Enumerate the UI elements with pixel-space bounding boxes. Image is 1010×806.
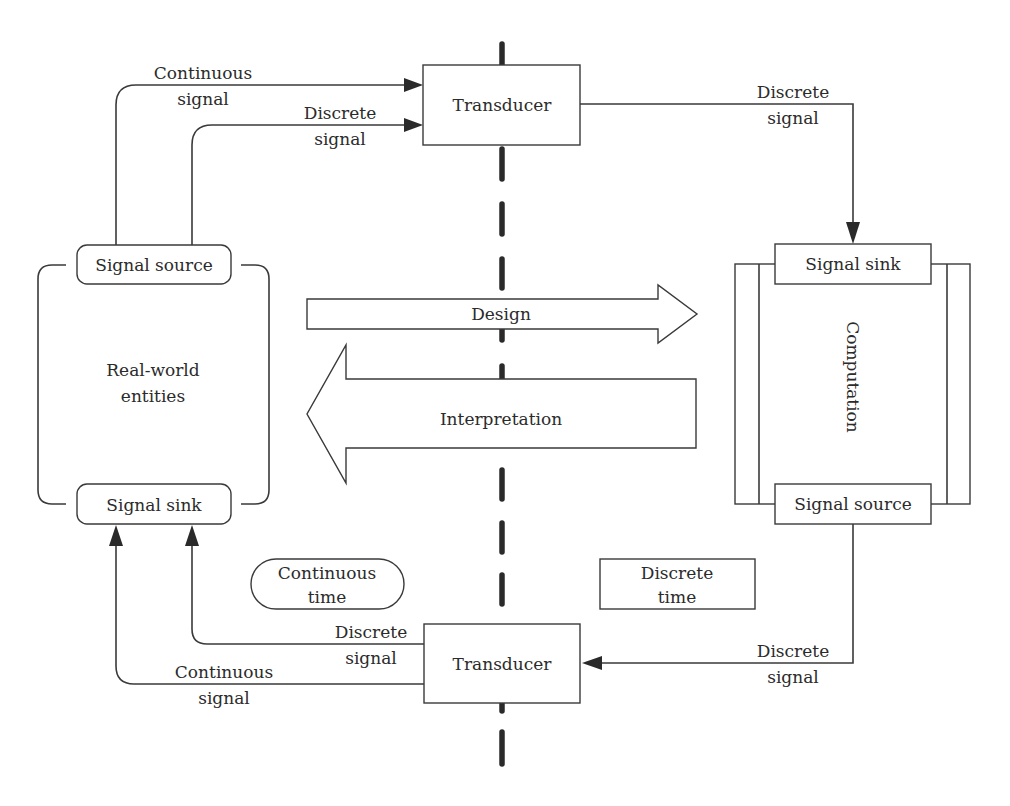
discrete-time-label: Discrete time bbox=[600, 559, 755, 609]
top-discrete-in-label-line1: Discrete bbox=[304, 103, 376, 123]
right-signal-source: Signal source bbox=[775, 484, 931, 524]
bottom-discrete-in-label-line2: signal bbox=[767, 667, 819, 687]
top-continuous-signal-flow: Continuous signal bbox=[116, 63, 423, 245]
bottom-continuous-label-line1: Continuous bbox=[175, 662, 273, 682]
arrowhead-icon bbox=[185, 525, 199, 546]
bottom-continuous-out-flow: Continuous signal bbox=[109, 525, 424, 708]
computation-label: Computation bbox=[843, 321, 863, 433]
left-signal-source-label: Signal source bbox=[95, 255, 213, 275]
top-transducer: Transducer bbox=[423, 65, 580, 145]
discrete-time-line2: time bbox=[658, 587, 696, 607]
cyber-physical-diagram: Real-world entities Signal source Signal… bbox=[0, 0, 1010, 806]
top-discrete-in-label-line2: signal bbox=[314, 129, 366, 149]
bottom-transducer: Transducer bbox=[424, 624, 580, 703]
top-continuous-label-line2: signal bbox=[177, 89, 229, 109]
discrete-time-line1: Discrete bbox=[641, 563, 713, 583]
interpretation-label: Interpretation bbox=[440, 409, 562, 429]
computation-block: Computation bbox=[735, 264, 970, 504]
bottom-transducer-label: Transducer bbox=[453, 654, 553, 674]
bottom-discrete-out-label-line1: Discrete bbox=[335, 622, 407, 642]
arrowhead-icon bbox=[846, 222, 860, 244]
continuous-time-label: Continuous time bbox=[251, 559, 404, 609]
right-signal-source-label: Signal source bbox=[794, 494, 912, 514]
real-world-label-line2: entities bbox=[121, 386, 185, 406]
arrowhead-icon bbox=[109, 525, 123, 546]
arrowhead-icon bbox=[582, 656, 602, 670]
bottom-discrete-in-label-line1: Discrete bbox=[757, 641, 829, 661]
real-world-entities: Real-world entities bbox=[38, 265, 269, 504]
bottom-discrete-out-label-line2: signal bbox=[345, 648, 397, 668]
top-discrete-signal-flow: Discrete signal bbox=[192, 103, 423, 245]
top-continuous-label-line1: Continuous bbox=[154, 63, 252, 83]
design-label: Design bbox=[471, 304, 531, 324]
left-signal-source: Signal source bbox=[77, 245, 231, 284]
bottom-continuous-label-line2: signal bbox=[198, 688, 250, 708]
top-discrete-out-label-line2: signal bbox=[767, 108, 819, 128]
real-world-label-line1: Real-world bbox=[106, 360, 200, 380]
left-signal-sink-label: Signal sink bbox=[106, 495, 202, 515]
continuous-time-line2: time bbox=[308, 587, 346, 607]
top-transducer-label: Transducer bbox=[453, 95, 553, 115]
top-discrete-out-flow: Discrete signal bbox=[580, 82, 860, 244]
left-signal-sink: Signal sink bbox=[77, 484, 231, 524]
arrowhead-icon bbox=[404, 118, 423, 132]
right-signal-sink: Signal sink bbox=[775, 244, 931, 284]
arrowhead-icon bbox=[404, 78, 423, 92]
continuous-time-line1: Continuous bbox=[278, 563, 376, 583]
top-discrete-out-label-line1: Discrete bbox=[757, 82, 829, 102]
right-signal-sink-label: Signal sink bbox=[805, 254, 901, 274]
